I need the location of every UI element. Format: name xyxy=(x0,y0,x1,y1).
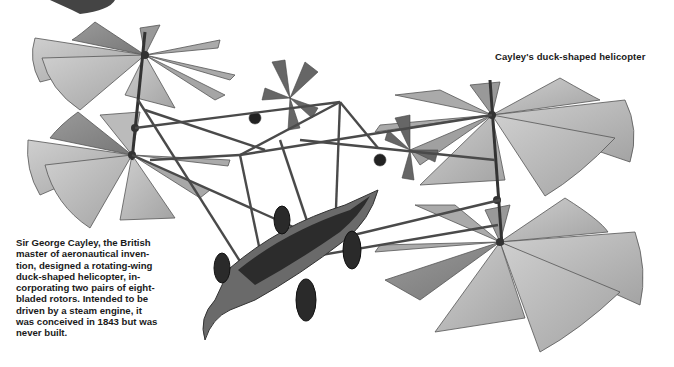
caption-line: corporating two pairs of eight- xyxy=(16,282,171,293)
caption-line: duck-shaped helicopter, in- xyxy=(16,271,171,282)
caption-line: tion, designed a rotating-wing xyxy=(16,260,171,271)
caption-line: driven by a steam engine, it xyxy=(16,305,171,316)
caption-line: was conceived in 1843 but was xyxy=(16,316,171,327)
caption-line: master of aeronautical inven- xyxy=(16,248,171,259)
figure-title: Cayley's duck-shaped helicopter xyxy=(495,51,646,62)
caption-line: Sir George Cayley, the British xyxy=(16,237,171,248)
left-upper-rotor xyxy=(32,22,235,110)
caption-line: never built. xyxy=(16,327,171,338)
caption-line: bladed rotors. Intended to be xyxy=(16,293,171,304)
page-fragment xyxy=(50,0,115,14)
figure-caption: Sir George Cayley, the British master of… xyxy=(16,237,171,339)
